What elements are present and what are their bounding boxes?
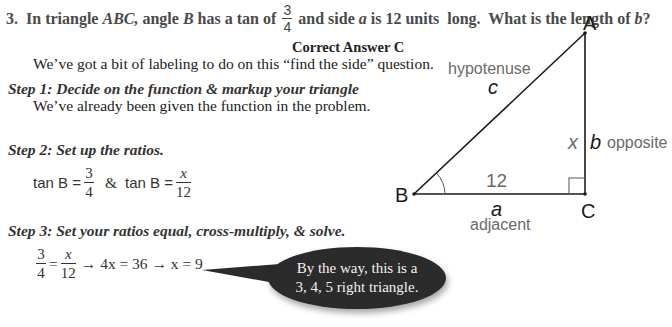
question-text: In triangle: [26, 10, 102, 28]
fraction: x 12: [176, 165, 191, 200]
angle-name: B: [183, 10, 194, 28]
fraction: 3 4: [84, 165, 94, 200]
fraction: 3 4: [36, 246, 46, 281]
side-length-label: 12: [486, 170, 507, 192]
side-c-label: c: [488, 76, 498, 99]
equation-text: tan B =: [33, 174, 81, 191]
fraction-denominator: 4: [85, 184, 93, 200]
fraction-numerator: x: [65, 246, 72, 262]
equation-solution: → 4x = 36 → x = 9: [81, 255, 203, 273]
intro-text: We’ve got a bit of labeling to do on thi…: [33, 55, 434, 73]
side-b-label: b: [590, 131, 601, 154]
question-number: 3.: [6, 10, 18, 28]
step-1-title: Step 1: Decide on the function & markup …: [8, 80, 359, 98]
fraction: x 12: [61, 246, 76, 281]
fraction-denominator: 4: [37, 265, 45, 281]
question-text: angle: [138, 10, 182, 28]
question-text: has a tan of: [194, 10, 277, 28]
triangle-diagram: A B C hypotenuse c x b opposite 12 a adj…: [380, 0, 672, 327]
vertex-c-label: C: [581, 200, 595, 223]
tan-fraction: 3 4: [282, 3, 292, 34]
ampersand: &: [105, 174, 117, 192]
vertex-a-label: A: [583, 12, 596, 35]
step-1-body: We’ve already been given the function in…: [33, 97, 370, 115]
opposite-label: opposite: [607, 134, 668, 152]
fraction-numerator: 3: [85, 165, 93, 181]
adjacent-label: adjacent: [470, 216, 531, 234]
fraction-numerator: 3: [283, 3, 291, 17]
fraction-denominator: 12: [176, 184, 191, 200]
fraction-denominator: 12: [61, 265, 76, 281]
fraction-bar: [176, 182, 191, 183]
vertex-b-label: B: [395, 184, 408, 207]
step-2-title: Step 2: Set up the ratios.: [8, 141, 164, 159]
equation-text: tan B =: [125, 174, 173, 191]
triangle-shape-icon: [380, 0, 672, 327]
fraction-numerator: x: [180, 165, 187, 181]
step-3-equation: 3 4 = x 12 → 4x = 36 → x = 9: [33, 246, 203, 281]
fraction-bar: [84, 182, 94, 183]
side-name: a: [359, 10, 367, 28]
equals-sign: =: [49, 255, 58, 273]
step-3-title: Step 3: Set your ratios equal, cross-mul…: [8, 222, 345, 240]
fraction-denominator: 4: [283, 20, 291, 34]
fraction-numerator: 3: [37, 246, 45, 262]
triangle-name: ABC,: [102, 10, 138, 28]
fraction-bar: [36, 263, 46, 264]
side-x-label: x: [568, 131, 578, 154]
fraction-bar: [61, 263, 76, 264]
question-text: and side: [298, 10, 358, 28]
step-2-equation: tan B = 3 4 & tan B = x 12: [33, 165, 194, 200]
